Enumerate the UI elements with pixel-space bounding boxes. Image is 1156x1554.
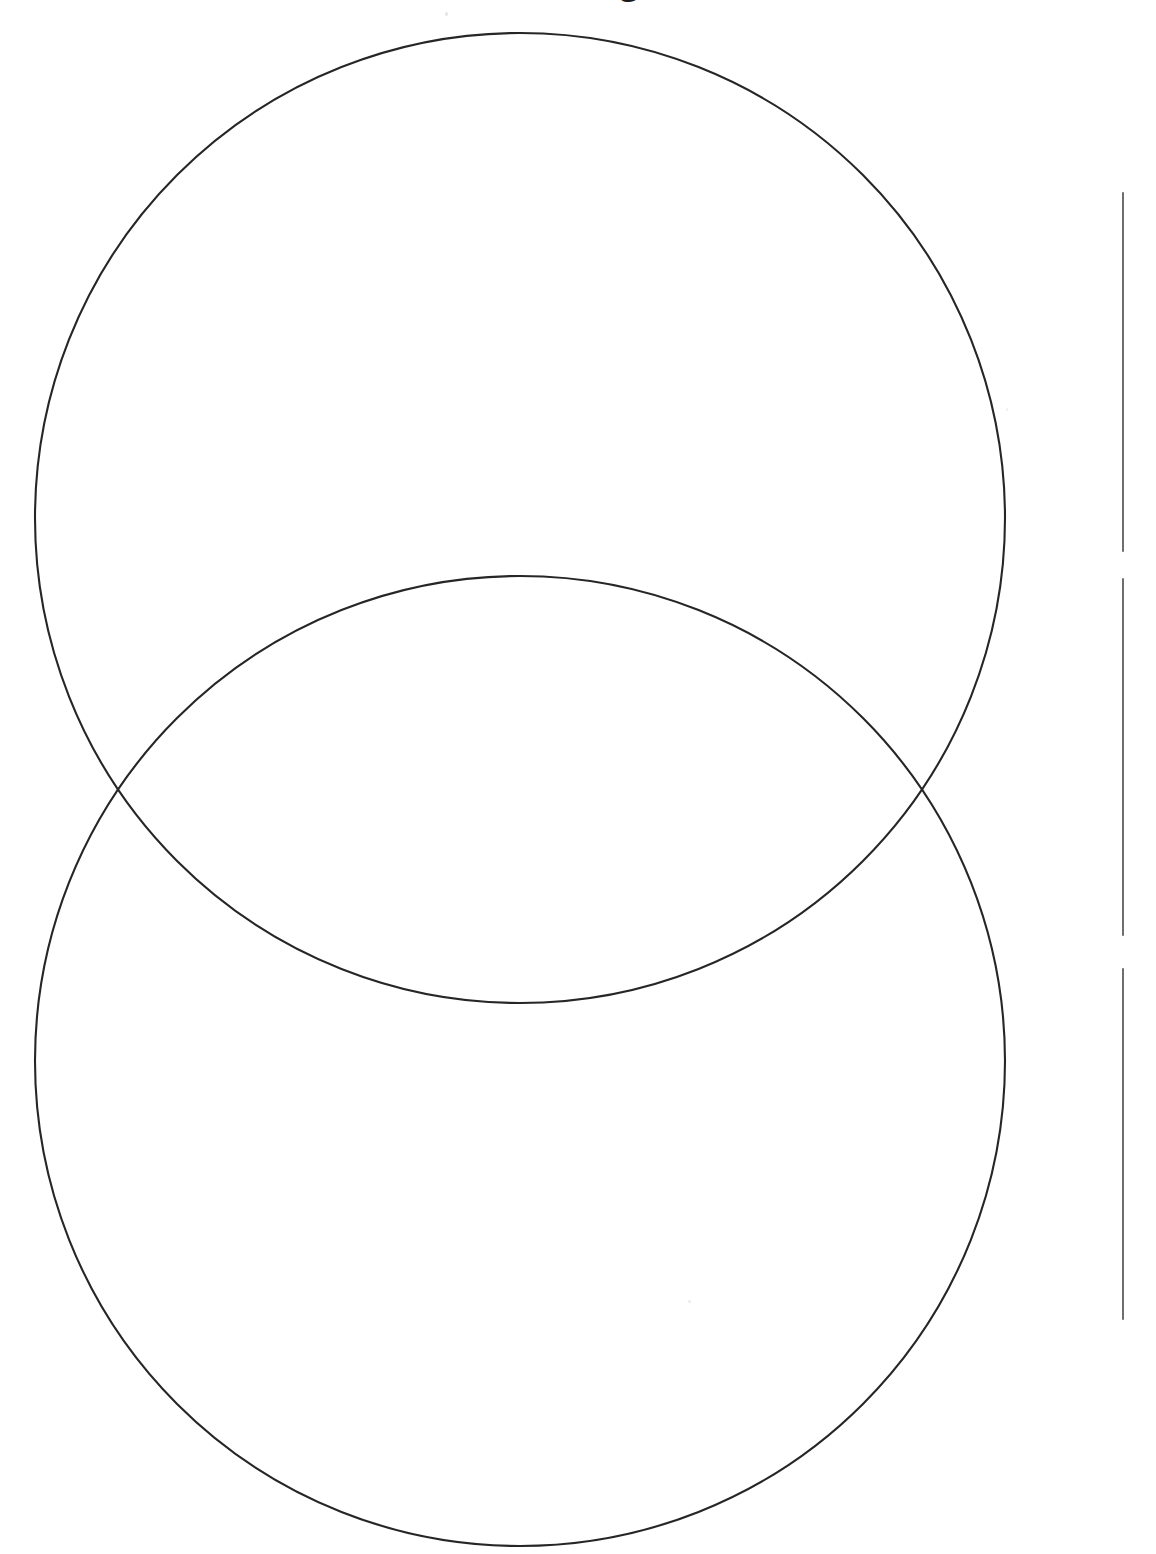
venn-circles: [35, 33, 1005, 1546]
writing-line-1: [1122, 192, 1124, 552]
writing-line-2: [1122, 578, 1124, 936]
scan-speck: [445, 12, 448, 16]
scan-speck: [1006, 408, 1008, 411]
venn-circle-lower[interactable]: [35, 576, 1005, 1546]
worksheet-page: Venn Diagram: [0, 0, 1156, 1554]
venn-circle-upper[interactable]: [35, 33, 1005, 1003]
venn-diagram: [0, 0, 1156, 1554]
scan-speck: [688, 1300, 691, 1303]
writing-line-3: [1122, 968, 1124, 1320]
